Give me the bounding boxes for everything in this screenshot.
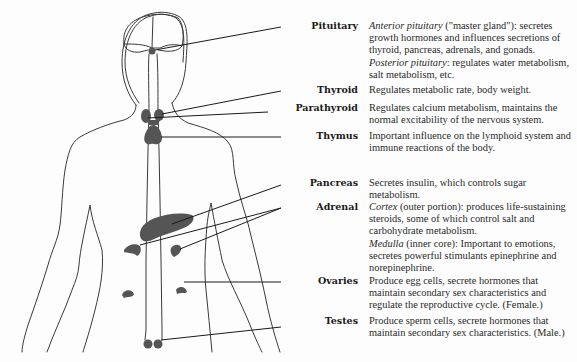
ovary-left — [122, 290, 134, 298]
pituitary-leader — [155, 27, 281, 50]
left-arm-inner-outline — [47, 205, 103, 352]
desc-paragraph: Produce egg cells, secrete hormones that… — [369, 275, 575, 312]
label-adrenal: Adrenal — [316, 201, 358, 213]
desc-italic: Cortex — [369, 201, 397, 212]
desc-text: (outer portion): produces life-sustainin… — [369, 201, 566, 236]
desc-paragraph: Regulates metabolic rate, body weight. — [369, 84, 575, 96]
desc-ovaries: Produce egg cells, secrete hormones that… — [369, 275, 575, 312]
testis-left — [144, 340, 153, 349]
thymus-gland — [144, 125, 162, 144]
pancreas-gland — [140, 214, 194, 242]
adrenal-gland-right — [171, 245, 181, 257]
testes-leader — [161, 327, 281, 340]
desc-thyroid: Regulates metabolic rate, body weight. — [369, 84, 575, 96]
desc-text: Regulates calcium metabolism, maintains … — [369, 102, 557, 125]
desc-pancreas: Secretes insulin, which controls sugar m… — [369, 177, 575, 201]
label-testes: Testes — [325, 315, 358, 327]
desc-paragraph: Regulates calcium metabolism, maintains … — [369, 102, 575, 126]
label-thyroid: Thyroid — [317, 84, 358, 96]
desc-thymus: Important influence on the lymphoid syst… — [369, 130, 575, 154]
head-inner-outline — [125, 14, 184, 103]
desc-paragraph: Posterior pituitary: regulates water met… — [369, 57, 575, 81]
desc-pituitary: Anterior pituitary ("master gland"): sec… — [369, 20, 575, 81]
desc-italic: Anterior pituitary — [369, 20, 443, 31]
pancreas-leader — [172, 185, 281, 224]
brain-midline — [152, 17, 153, 48]
desc-parathyroid: Regulates calcium metabolism, maintains … — [369, 102, 575, 126]
label-pancreas: Pancreas — [310, 177, 358, 189]
spinal-cord-right — [157, 54, 162, 340]
desc-testes: Produce sperm cells, secrete hormones th… — [369, 315, 575, 339]
pituitary-gland — [149, 48, 156, 55]
adrenal-gland-left — [124, 244, 141, 256]
desc-italic: Medulla — [369, 238, 404, 249]
desc-paragraph: Anterior pituitary ("master gland"): sec… — [369, 20, 575, 57]
ovary-right — [176, 287, 187, 294]
label-ovaries: Ovaries — [318, 275, 358, 287]
testis-right — [154, 340, 163, 349]
desc-paragraph: Medulla (inner core): Important to emoti… — [369, 238, 575, 275]
desc-paragraph: Important influence on the lymphoid syst… — [369, 130, 575, 154]
spinal-cord-left — [145, 54, 149, 340]
thyroid-leader — [162, 91, 281, 114]
desc-text: Produce sperm cells, secrete hormones th… — [369, 315, 565, 338]
label-parathyroid: Parathyroid — [295, 102, 358, 114]
right-shoulder-outline — [172, 103, 280, 352]
desc-text: Produce egg cells, secrete hormones that… — [369, 275, 546, 310]
adrenal-leader-right — [180, 208, 281, 249]
desc-paragraph: Cortex (outer portion): produces life-su… — [369, 201, 575, 238]
desc-text: Secretes insulin, which controls sugar m… — [369, 177, 526, 200]
thyroid-gland-right — [154, 109, 164, 121]
desc-italic: Posterior pituitary — [369, 57, 447, 68]
desc-text: Important influence on the lymphoid syst… — [369, 130, 571, 153]
desc-paragraph: Produce sperm cells, secrete hormones th… — [369, 315, 575, 339]
desc-paragraph: Secretes insulin, which controls sugar m… — [369, 177, 575, 201]
body-outline — [22, 12, 280, 352]
desc-adrenal: Cortex (outer portion): produces life-su… — [369, 201, 575, 274]
left-shoulder-outline — [22, 105, 136, 352]
label-pituitary: Pituitary — [311, 20, 358, 32]
desc-text: Regulates metabolic rate, body weight. — [369, 84, 531, 95]
label-thymus: Thymus — [316, 130, 358, 142]
parathyroid-gland — [147, 120, 160, 125]
